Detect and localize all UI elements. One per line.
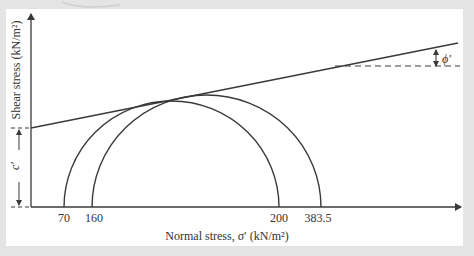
tick-label-70: 70 bbox=[58, 211, 70, 225]
decorative-curve bbox=[62, 2, 120, 7]
x-axis-label: Normal stress, σ′ (kN/m²) bbox=[165, 229, 288, 243]
y-axis-label: Shear stress (kN/m²) bbox=[9, 21, 23, 120]
mohr-circle-2 bbox=[92, 95, 321, 207]
phi-label: ϕ′ bbox=[442, 52, 451, 66]
cohesion-label: c′ bbox=[8, 162, 22, 170]
mohr-circle-1 bbox=[64, 101, 279, 207]
failure-envelope bbox=[31, 43, 458, 128]
tick-label-200: 200 bbox=[270, 211, 288, 225]
tick-label-383-5: 383.5 bbox=[305, 211, 332, 225]
mohr-circle-diagram: ϕ′ c′ Shear stress (kN/m²) 70 160 200 38… bbox=[0, 0, 474, 256]
tick-label-160: 160 bbox=[85, 211, 103, 225]
